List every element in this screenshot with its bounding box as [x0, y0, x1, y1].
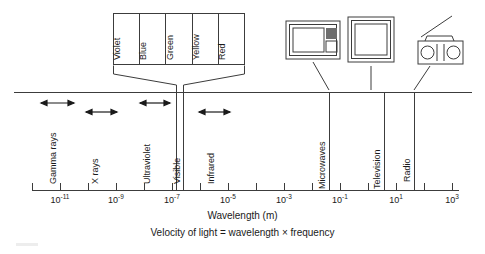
color-cell-yellow: Yellow: [193, 14, 219, 64]
axis-tick: [256, 183, 257, 190]
band-label-x-rays: X rays: [91, 158, 100, 184]
axis-tick-label: 10-9: [108, 195, 124, 206]
band-arrow-gamma-rays: [41, 100, 74, 105]
axis-tick-label: 10-11: [51, 195, 70, 206]
axis-tick: [396, 183, 397, 190]
visible-band-funnel-left: [114, 66, 177, 93]
spectrum-baseline: [14, 92, 472, 93]
color-label-yellow: Yellow: [192, 34, 201, 60]
wavelength-axis-line: [32, 190, 459, 191]
axis-tick-label: 10-5: [220, 195, 236, 206]
electromagnetic-spectrum-figure: Violet Blue Green Yellow Red: [0, 0, 485, 254]
color-cell-green: Green: [166, 14, 192, 64]
axis-tick-label: 101: [389, 195, 403, 206]
axis-tick: [200, 183, 201, 190]
color-label-green: Green: [166, 35, 175, 60]
band-label-ultraviolet: Ultraviolet: [143, 144, 152, 184]
band-label-infrared: Infrared: [207, 153, 216, 184]
axis-tick: [172, 183, 173, 190]
axis-tick: [340, 183, 341, 190]
axis-title: Wavelength (m): [0, 210, 485, 222]
axis-tick: [312, 183, 313, 190]
band-arrow-x-rays: [86, 109, 117, 114]
axis-tick: [32, 183, 33, 190]
television-set-icon: [348, 17, 394, 62]
color-label-red: Red: [218, 43, 227, 60]
microwave-oven-icon: [286, 21, 340, 59]
axis-tick-label: 10-7: [164, 195, 180, 206]
band-label-microwaves: Microwaves: [318, 141, 327, 189]
axis-tick: [116, 183, 117, 190]
axis-tick: [144, 183, 145, 190]
color-label-violet: Violet: [113, 38, 122, 60]
axis-tick: [368, 183, 369, 190]
axis-tick: [88, 183, 89, 190]
axis-tick-label: 10-1: [332, 195, 348, 206]
device-leader-radio: [414, 66, 430, 90]
axis-tick: [452, 183, 453, 190]
axis-tick: [228, 183, 229, 190]
axis-tick: [60, 183, 61, 190]
visible-color-box: Violet Blue Green Yellow Red: [113, 13, 245, 65]
color-cell-violet: Violet: [114, 14, 140, 64]
axis-tick-label: 103: [445, 195, 459, 206]
band-label-visible: Visible: [173, 158, 182, 184]
band-arrow-infrared: [199, 109, 230, 114]
color-cell-blue: Blue: [140, 14, 166, 64]
axis-tick: [424, 183, 425, 190]
axis-tick: [284, 183, 285, 190]
band-label-television: Television: [373, 149, 382, 189]
band-label-radio: Radio: [403, 158, 412, 182]
axis-tick-label: 10-3: [276, 195, 292, 206]
color-cell-red: Red: [219, 14, 244, 64]
device-leader-microwaves: [313, 62, 329, 90]
radio-receiver-icon: [418, 16, 463, 64]
color-label-blue: Blue: [139, 42, 148, 60]
corner-artifact: [16, 243, 38, 246]
band-arrow-ultraviolet: [140, 100, 170, 105]
band-label-gamma-rays: Gamma rays: [49, 132, 58, 184]
formula-caption: Velocity of light = wavelength × frequen…: [0, 227, 485, 239]
visible-band-funnel-right: [184, 66, 245, 93]
